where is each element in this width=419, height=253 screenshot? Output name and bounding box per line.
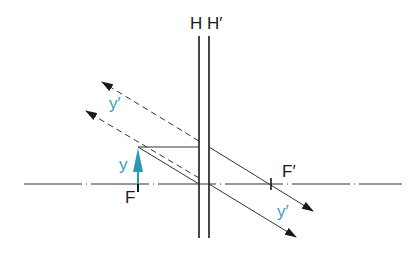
optics-diagram bbox=[0, 0, 419, 253]
label-image-y-prime-lower: y′ bbox=[277, 202, 289, 222]
label-h: H bbox=[190, 14, 202, 34]
object-arrow-head bbox=[133, 148, 143, 172]
ray-through-f-prime bbox=[209, 147, 313, 211]
label-h-prime: H′ bbox=[207, 14, 222, 34]
ray-through-focus-object-side bbox=[138, 147, 199, 184]
label-f: F bbox=[125, 188, 135, 208]
virtual-ray-lower bbox=[86, 111, 199, 178]
label-object-y: y bbox=[119, 155, 128, 175]
label-f-prime: F′ bbox=[282, 162, 296, 182]
label-image-y-prime-upper: y′ bbox=[109, 94, 121, 114]
